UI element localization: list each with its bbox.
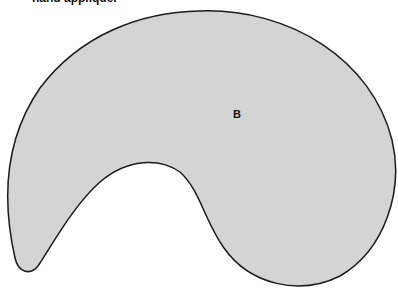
shape-b-outline [8,11,396,286]
shape-label: B [233,108,241,120]
appliqué-shape-b: B [0,0,398,294]
pattern-diagram: hand appliqué. B [0,0,398,294]
